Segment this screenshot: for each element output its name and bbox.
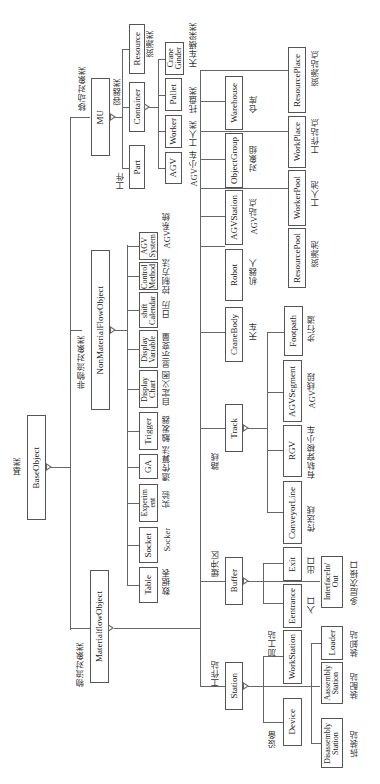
connector: [127, 585, 139, 586]
connector: [158, 131, 165, 132]
label-socket: Socker: [163, 528, 172, 552]
connector: [114, 628, 200, 629]
node-loader: Loader: [321, 626, 343, 660]
node-warehouse: Warehouse: [225, 76, 243, 130]
label-robot: 机器人: [250, 258, 259, 285]
connector: [311, 643, 321, 644]
node-device: Device: [283, 698, 302, 746]
label-warehouse: 仓库: [250, 95, 259, 113]
connector: [267, 332, 268, 512]
connector: [158, 59, 159, 169]
node-eentrance: Eentrance: [283, 584, 302, 628]
node-track: Track: [225, 404, 243, 452]
label-loader: 装卸站: [351, 630, 360, 657]
node-container: Container: [129, 82, 145, 132]
connector: [122, 49, 123, 169]
connector: [122, 107, 129, 108]
connector: [127, 431, 139, 432]
connector: [263, 563, 283, 564]
label-station: 工作站: [212, 660, 221, 687]
node-exit: Exit: [283, 547, 302, 581]
label-trigger: 触发器: [163, 415, 172, 442]
class-hierarchy-diagram: BaseObject 基类 NonMaterialFlowObject 非物流对…: [0, 0, 380, 784]
connector: [127, 246, 139, 247]
connector: [200, 216, 225, 217]
label-materialflowobject: 物流对象类: [77, 642, 86, 687]
label-shiftcalendar: 日历: [163, 300, 172, 318]
connector: [248, 428, 267, 429]
connector: [267, 450, 283, 451]
label-workplace: 工作站点: [312, 118, 321, 154]
connector: [200, 332, 225, 333]
label-track: 路线: [212, 452, 221, 470]
label-controlmethod: 控制方法: [163, 258, 172, 294]
node-displayvariable: Display Variable: [139, 330, 158, 368]
node-displaychart: Display Chart: [139, 370, 158, 408]
connector: [127, 276, 139, 277]
label-agv: AGV小车: [190, 150, 199, 186]
connector: [267, 512, 283, 513]
label-ga: 遗传算法: [163, 445, 172, 481]
connector: [311, 743, 321, 744]
node-socket: Socket: [139, 527, 158, 563]
node-resourceplace: ResourcePlace: [288, 47, 306, 113]
connector: [127, 310, 139, 311]
label-aassemblystation: 装配站: [351, 672, 360, 699]
label-conveyorline: 传送线: [308, 505, 317, 532]
node-disassemblystation: Disassembly Station: [321, 718, 343, 768]
connector: [263, 563, 264, 603]
node-experiment: Experim ent: [139, 484, 158, 522]
connector: [248, 581, 320, 582]
node-resource: Resource: [129, 24, 145, 74]
node-shiftcalendar: shift Calendar: [139, 292, 158, 328]
label-exit: 出口: [308, 556, 317, 574]
node-robot: Robot: [225, 249, 243, 301]
connector: [263, 603, 283, 604]
connector: [200, 70, 288, 71]
connector: [127, 245, 128, 585]
connector: [127, 467, 139, 468]
node-rgv: RGV: [283, 425, 302, 477]
label-cranebody: 天车: [250, 322, 259, 340]
connector: [70, 628, 90, 629]
label-agvsystem: AGV系统: [163, 212, 172, 248]
node-agv: AGV: [165, 152, 182, 184]
label-pallet: 托盘类: [190, 86, 199, 113]
label-rgv: 有轨穿梭小车: [308, 425, 317, 479]
label-interfaceinout: 多层次接口: [351, 560, 360, 605]
label-experiment: 实验: [163, 490, 172, 508]
node-part: Part: [129, 145, 145, 189]
node-agvstation: AGVStation: [225, 190, 243, 245]
label-baseobject: 基类: [14, 457, 23, 475]
connector: [200, 188, 288, 189]
connector: [127, 545, 139, 546]
label-workstation: 加工站: [269, 630, 278, 657]
node-craneginder: Crane Ginder: [165, 42, 184, 75]
node-workerpool: WorkerPool: [288, 170, 306, 226]
label-table: 数据表: [163, 568, 172, 595]
node-baseobject: BaseObject: [27, 415, 46, 520]
node-agvsegment: AGVSegment: [283, 360, 302, 422]
label-buffer: 缓冲区: [212, 550, 221, 577]
connector: [248, 686, 320, 687]
node-interfaceinout: InterfaceIn/ Out: [321, 556, 343, 608]
connector: [200, 101, 225, 102]
node-cranebody: CraneBody: [225, 307, 243, 362]
node-workplace: WorkPlace: [288, 116, 306, 168]
node-nonmaterialflowobject: NonMaterialFlowObject: [91, 250, 110, 410]
label-part: 工件: [117, 172, 126, 190]
node-objectgroup: ObjectGroup: [225, 133, 243, 188]
label-workerpool: 工人池: [312, 180, 321, 207]
node-table: Table: [139, 567, 158, 603]
connector: [122, 49, 129, 50]
label-displayvariable: 显示变量: [163, 332, 172, 368]
node-mu: MU: [91, 78, 110, 156]
connector: [200, 428, 225, 429]
connector: [200, 246, 225, 247]
connector: [70, 117, 90, 118]
node-footpath: Footpath: [284, 306, 303, 356]
node-buffer: Buffer: [225, 557, 243, 605]
label-agvstation: AGV站点: [250, 198, 259, 234]
label-disassemblystation: 拆装站: [351, 730, 360, 757]
node-station: Station: [225, 662, 243, 710]
